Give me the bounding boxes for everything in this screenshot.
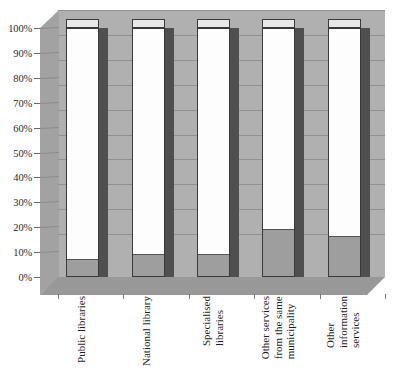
x-axis-tick-mark (254, 294, 255, 299)
bar-side-face (361, 28, 370, 277)
bar-column[interactable] (66, 28, 99, 277)
x-axis-category-label: National library (140, 296, 153, 366)
x-axis-category-label: Other services from the same municipalit… (259, 296, 297, 359)
x-axis-tick-mark (189, 294, 190, 299)
y-axis-tick-label: 80% (13, 72, 32, 83)
y-axis-tick-label: 10% (13, 247, 32, 258)
bar-column[interactable] (132, 28, 165, 277)
x-axis-labels: Public librariesNational librarySpeciali… (40, 296, 385, 379)
bar-segment-upper (198, 29, 229, 254)
x-axis-tick-mark (320, 294, 321, 299)
chart-floor (40, 277, 385, 295)
gridline (58, 10, 385, 11)
x-axis-tick-mark (123, 294, 124, 299)
bar-top-cap (262, 19, 295, 28)
bar-side-face (165, 28, 174, 277)
y-axis-tick-label: 70% (13, 97, 32, 108)
y-axis-tick-label: 40% (13, 172, 32, 183)
bar-segment-lower (198, 254, 229, 276)
bar-front-face (197, 28, 230, 277)
bar-segment-lower (133, 254, 164, 276)
bar-column[interactable] (262, 28, 295, 277)
bar-segment-upper (67, 29, 98, 259)
y-axis-tick-label: 60% (13, 122, 32, 133)
bar-side-face (230, 28, 239, 277)
bar-side-face (295, 28, 304, 277)
plot-area (40, 10, 385, 295)
x-axis-category-label: Other information services (324, 296, 362, 348)
bar-segment-lower (263, 229, 294, 276)
bar-segment-lower (329, 236, 360, 276)
bar-column[interactable] (328, 28, 361, 277)
bar-front-face (328, 28, 361, 277)
x-axis-tick-mark (385, 294, 386, 299)
y-axis-tick-label: 0% (18, 272, 32, 283)
y-axis-tick-label: 90% (13, 47, 32, 58)
y-axis: 0%10%20%30%40%50%60%70%80%90%100% (0, 0, 40, 300)
bar-front-face (66, 28, 99, 277)
chart-container: 0%10%20%30%40%50%60%70%80%90%100% Public… (0, 0, 399, 379)
x-axis-category-label: Public libraries (75, 296, 88, 363)
bar-segment-upper (133, 29, 164, 254)
bar-top-cap (197, 19, 230, 28)
y-axis-tick-label: 30% (13, 197, 32, 208)
bar-column[interactable] (197, 28, 230, 277)
bar-top-cap (66, 19, 99, 28)
bar-segment-upper (263, 29, 294, 229)
bar-front-face (132, 28, 165, 277)
bar-segment-lower (67, 259, 98, 276)
bar-top-cap (328, 19, 361, 28)
bar-top-cap (132, 19, 165, 28)
y-axis-tick-label: 50% (13, 147, 32, 158)
bar-front-face (262, 28, 295, 277)
x-axis-tick-mark (58, 294, 59, 299)
bar-segment-upper (329, 29, 360, 236)
y-axis-tick-label: 100% (8, 23, 32, 34)
bar-side-face (99, 28, 108, 277)
x-axis-category-label: Specialised libraries (200, 296, 225, 346)
y-axis-tick-label: 20% (13, 222, 32, 233)
